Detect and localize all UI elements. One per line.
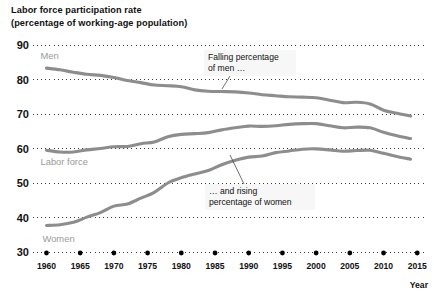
series-line-labor-force [46,123,410,152]
annotation-text-line-1: Falling percentage [208,52,279,62]
x-tick-label: 1990 [239,261,258,271]
annotation-text-line-1: … and rising [209,186,257,196]
y-tick-label: 70 [17,108,29,120]
series-label-labor-force: Labor force [40,156,87,167]
series-labels: MenLabor forceWomen [40,50,87,244]
x-tick-label: 1980 [172,261,191,271]
x-tick-dot [213,251,218,256]
y-axis-ticks: 30405060708090 [17,39,29,258]
series-label-women: Women [42,233,74,244]
series-label-men: Men [40,50,58,61]
x-tick-dot [246,251,251,256]
x-axis-ticks: 1960196519701975198019851990199520002005… [37,261,427,271]
y-tick-label: 90 [17,39,29,51]
y-tick-label: 50 [17,177,29,189]
annotation-leader-line [222,76,230,89]
x-tick-label: 2010 [374,261,393,271]
y-tick-label: 40 [17,212,29,224]
x-tick-dot [314,251,319,256]
x-tick-dot [347,251,352,256]
x-tick-label: 2015 [408,261,427,271]
x-tick-label: 2005 [340,261,359,271]
y-tick-label: 30 [17,246,29,258]
x-tick-label: 1995 [273,261,292,271]
x-tick-dot [415,251,420,256]
y-tick-label: 80 [17,74,29,86]
annotation-text-line-2: percentage of women [209,197,292,207]
chart-figure: Labor force participation rate (percenta… [0,0,434,296]
annotation-falling-men: Falling percentageof men … [204,50,296,89]
annotation-text-line-2: of men … [208,63,245,73]
x-tick-dot [78,251,83,256]
x-axis-label: Year [410,280,429,290]
x-tick-label: 1975 [138,261,157,271]
x-tick-label: 1965 [71,261,90,271]
x-tick-dot [280,251,285,256]
x-tick-dot [44,251,49,256]
chart-plot-area: 30405060708090 1960196519701975198019851… [0,0,434,296]
x-tick-label: 2000 [307,261,326,271]
x-tick-label: 1960 [37,261,56,271]
x-tick-dot [179,251,184,256]
y-tick-label: 60 [17,143,29,155]
x-tick-label: 1985 [205,261,224,271]
x-axis-tick-dots [44,251,420,256]
x-tick-dot [145,251,150,256]
x-tick-dot [381,251,386,256]
x-tick-dot [111,251,116,256]
x-tick-label: 1970 [104,261,123,271]
